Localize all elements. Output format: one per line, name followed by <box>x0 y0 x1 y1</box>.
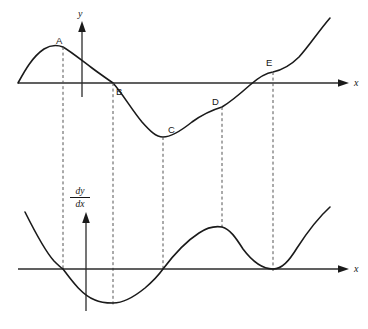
point-label-C: C <box>168 124 175 135</box>
dashed-connector-group <box>63 47 273 305</box>
derivative-label-denominator: dx <box>76 199 86 209</box>
derivative-axis-label: dy dx <box>70 186 90 209</box>
function-and-derivative-figure: x y A B C D E x <box>0 0 368 329</box>
top-y-axis-label: y <box>77 8 83 19</box>
derivative-panel: x dy dx <box>18 186 359 311</box>
bottom-x-axis-label: x <box>353 263 359 274</box>
function-curve <box>18 18 330 137</box>
function-panel: x y A B C D E <box>18 8 359 137</box>
top-x-axis-arrowhead <box>338 79 349 87</box>
point-label-D: D <box>212 96 219 107</box>
bottom-x-axis-arrowhead <box>338 265 349 273</box>
figure-container: x y A B C D E x <box>0 0 368 329</box>
top-y-axis-arrowhead <box>78 21 86 32</box>
point-label-A: A <box>56 35 63 46</box>
bottom-y-axis-arrowhead <box>82 212 90 223</box>
top-x-axis-label: x <box>353 77 359 88</box>
derivative-label-numerator: dy <box>76 186 86 196</box>
point-label-E: E <box>266 57 272 68</box>
derivative-curve <box>25 207 330 303</box>
point-label-B: B <box>116 86 122 97</box>
